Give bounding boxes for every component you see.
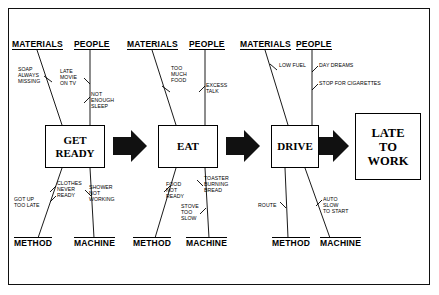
- category-label-people-get-ready: PEOPLE: [74, 39, 110, 50]
- cause-stop-for-cigarettes: STOP FOR CIGARETTES: [319, 80, 381, 86]
- stage-label-eat: EAT: [177, 140, 199, 153]
- category-label-method-drive: METHOD: [272, 237, 310, 248]
- category-label-materials-eat: MATERIALS: [127, 39, 178, 50]
- bone-method-drive: [285, 168, 288, 238]
- tick-toaster-burning-bread: [197, 180, 203, 186]
- category-label-method-eat: METHOD: [133, 237, 171, 248]
- cause-not-enough-sleep: NOT ENOUGH SLEEP: [91, 91, 114, 109]
- tick-stop-for-cigarettes: [312, 84, 318, 90]
- result-box-late-to-work[interactable]: LATE TO WORK: [355, 113, 421, 180]
- cause-food-not-ready: FOOD NOT READY: [166, 181, 184, 199]
- category-label-machine-eat: MACHINE: [186, 237, 227, 248]
- cause-day-dreams: DAY DREAMS: [319, 62, 353, 68]
- cause-too-much-food: TOO MUCH FOOD: [171, 65, 187, 83]
- stage-label-get-ready: GET READY: [55, 134, 94, 159]
- cause-route: ROUTE: [258, 202, 276, 208]
- tick-route: [280, 202, 286, 208]
- cause-shower-not-working: SHOWER NOT WORKING: [89, 184, 115, 202]
- result-label: LATE TO WORK: [368, 126, 409, 168]
- bone-machine-get-ready: [90, 168, 94, 238]
- bone-materials-get-ready: [37, 50, 62, 125]
- category-label-machine-drive: MACHINE: [320, 237, 361, 248]
- cause-soap-always-missing: SOAP ALWAYS MISSING: [18, 66, 40, 84]
- tick-stove-too-slow: [200, 208, 206, 214]
- cause-clothes-never-ready: CLOTHES NEVER READY: [57, 180, 82, 198]
- category-label-materials-drive: MATERIALS: [240, 39, 291, 50]
- stage-box-get-ready[interactable]: GET READY: [45, 125, 105, 168]
- tick-excess-talk: [199, 86, 205, 92]
- bone-method-get-ready: [38, 168, 62, 238]
- stage-box-drive[interactable]: DRIVE: [271, 125, 319, 168]
- category-label-people-drive: PEOPLE: [296, 39, 332, 50]
- tick-soap-always-missing: [44, 76, 52, 82]
- tick-day-dreams: [312, 66, 318, 72]
- category-label-materials-get-ready: MATERIALS: [12, 39, 63, 50]
- arrow-drive-to-result: [319, 130, 349, 162]
- stage-box-eat[interactable]: EAT: [158, 125, 218, 168]
- cause-excess-talk: EXCESS TALK: [206, 82, 227, 94]
- cause-stove-too-slow: STOVE TOO SLOW: [181, 203, 199, 221]
- cause-low-fuel: LOW FUEL: [279, 62, 306, 68]
- diagram-canvas: MATERIALS PEOPLE MATERIALS PEOPLE MATERI…: [0, 0, 439, 295]
- tick-late-movie-on-tv: [84, 78, 90, 84]
- tick-too-much-food: [162, 86, 170, 92]
- tick-not-enough-sleep: [84, 97, 90, 103]
- arrow-eat-to-drive: [226, 130, 260, 162]
- arrow-get-ready-to-eat: [113, 130, 147, 162]
- cause-got-up-too-late: GOT UP TOO LATE: [14, 196, 40, 208]
- bone-method-eat: [155, 168, 176, 238]
- stage-label-drive: DRIVE: [277, 140, 312, 153]
- cause-toaster-burning-bread: TOASTER BURNING BREAD: [204, 175, 229, 193]
- category-label-people-eat: PEOPLE: [189, 39, 225, 50]
- category-label-method-get-ready: METHOD: [14, 237, 52, 248]
- cause-late-movie-on-tv: LATE MOVIE ON TV: [60, 68, 77, 86]
- cause-auto-slow-to-start: AUTO SLOW TO START: [323, 196, 348, 214]
- category-label-machine-get-ready: MACHINE: [74, 237, 115, 248]
